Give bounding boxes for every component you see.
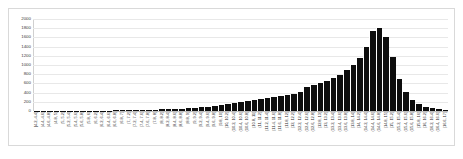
histogram-bar <box>277 96 284 111</box>
x-axis-tick-cell: (11, 11.2] <box>257 112 264 128</box>
x-axis-tick-label: (12, 12.2] <box>291 112 295 128</box>
x-axis-tick-cell: (5.6, 5.8] <box>79 112 86 127</box>
x-axis-tick-cell: (13, 13.2] <box>323 112 330 128</box>
histogram-bar <box>125 110 132 111</box>
histogram-bar <box>112 110 119 111</box>
x-axis-tick-label: (14, 14.2] <box>357 112 361 128</box>
histogram-bar <box>317 83 324 111</box>
histogram-bar <box>422 107 429 111</box>
histogram-bar <box>211 106 218 111</box>
x-axis-tick-cell: (7.8, 8] <box>152 112 159 124</box>
histogram-bar <box>204 107 211 111</box>
x-axis-tick-label: (6.2, 6.4] <box>100 112 104 127</box>
x-axis-tick-label: (11.4, 11.6] <box>272 112 276 131</box>
x-axis-tick-label: (9, 9.2] <box>193 112 197 124</box>
y-axis-tick-label: 1400 <box>21 44 31 48</box>
x-axis-tick-cell: (13.4, 13.6] <box>336 112 343 132</box>
x-axis-tick-cell: (5, 5.2] <box>59 112 66 124</box>
histogram-bar <box>356 58 363 111</box>
x-axis-tick-label: (14.2, 14.4] <box>364 112 368 132</box>
x-axis-tick-cell: (10.4, 10.6] <box>237 112 244 132</box>
x-axis-tick-label: (6.6, 6.8] <box>113 112 117 127</box>
x-axis-tick-cell: (13.6, 13.8] <box>343 112 350 132</box>
histogram-bar <box>257 99 264 111</box>
x-axis-tick-cell: (13.8, 14] <box>350 112 357 128</box>
histogram-bar <box>244 101 251 111</box>
x-axis-tick-cell: (14.2, 14.4] <box>363 112 370 132</box>
x-axis-tick-label: (15, 15.2] <box>390 112 394 128</box>
x-axis-tick-cell: (8, 8.2] <box>158 112 165 124</box>
x-axis-tick-label: (8.8, 9] <box>186 112 190 124</box>
x-axis-tick-cell: (10, 10.2] <box>224 112 231 128</box>
x-axis-tick-labels: [4.2, 4.4](4.4, 4.6](4.6, 4.8](4.8, 5](5… <box>33 112 448 158</box>
x-axis-tick-cell: (9.2, 9.4] <box>198 112 205 127</box>
x-axis-tick-cell: (7, 7.2] <box>125 112 132 124</box>
histogram-bar <box>330 78 337 111</box>
x-axis-tick-cell: (15.8, 16] <box>415 112 422 128</box>
histogram-bar <box>231 103 238 111</box>
x-axis-tick-cell: (9, 9.2] <box>191 112 198 124</box>
x-axis-tick-cell: (16, 16.2] <box>422 112 429 128</box>
x-axis-tick-label: (8.2, 8.4] <box>166 112 170 127</box>
x-axis-tick-label: (4.4, 4.6] <box>41 112 45 127</box>
histogram-bar <box>402 92 409 111</box>
histogram-bar <box>284 95 291 111</box>
x-axis-tick-cell: (10.2, 10.4] <box>231 112 238 132</box>
x-axis-tick-cell: (14.8, 15] <box>382 112 389 128</box>
x-axis-tick-cell: (16.4, 16.6] <box>435 112 442 132</box>
x-axis-tick-label: (5.8, 6] <box>87 112 91 124</box>
histogram-bar <box>396 79 403 111</box>
x-axis-tick-label: (16.2, 16.4] <box>430 112 434 132</box>
plot-area: 0200400600800100012001400160018002000 <box>33 19 448 111</box>
x-axis-tick-label: (9.4, 9.6] <box>206 112 210 127</box>
x-axis-tick-label: (4.8, 5] <box>54 112 58 124</box>
histogram-bar <box>363 47 370 111</box>
x-axis-tick-cell: (15.2, 15.4] <box>396 112 403 132</box>
x-axis-tick-label: (8, 8.2] <box>160 112 164 124</box>
x-axis-tick-label: (7.2, 7.4] <box>133 112 137 127</box>
x-axis-tick-cell: (8.8, 9] <box>185 112 192 124</box>
x-axis-tick-cell: (4.8, 5] <box>53 112 60 124</box>
x-axis-tick-label: (5.2, 5.4] <box>67 112 71 127</box>
x-axis-tick-cell: (12, 12.2] <box>290 112 297 128</box>
histogram-bar <box>178 109 185 111</box>
x-axis-tick-cell: (4.6, 4.8] <box>46 112 53 127</box>
x-axis-tick-label: (11.8, 12] <box>285 112 289 128</box>
histogram-bar <box>369 31 376 112</box>
y-axis-tick-label: 0 <box>29 109 31 113</box>
x-axis-tick-label: (4.6, 4.8] <box>47 112 51 127</box>
x-axis-tick-cell: (11.2, 11.4] <box>264 112 271 131</box>
x-axis-tick-label: (12.8, 13] <box>318 112 322 128</box>
y-axis-tick-label: 1000 <box>21 63 31 67</box>
x-axis-tick-cell: (8.4, 8.6] <box>171 112 178 127</box>
x-axis-tick-label: (9.2, 9.4] <box>199 112 203 127</box>
x-axis-tick-label: (6, 6.2] <box>94 112 98 124</box>
x-axis-tick-label: (13.4, 13.6] <box>338 112 342 132</box>
x-axis-tick-label: (14.8, 15] <box>384 112 388 128</box>
histogram-bars <box>33 19 448 111</box>
x-axis-tick-cell: (8.2, 8.4] <box>165 112 172 127</box>
x-axis-tick-cell: (14.6, 14.8] <box>376 112 383 132</box>
x-axis-tick-cell: (6, 6.2] <box>92 112 99 124</box>
y-axis-tick-label: 400 <box>24 90 31 94</box>
x-axis-tick-label: (10.6, 10.8] <box>245 112 249 132</box>
x-axis-tick-cell: (9.6, 9.8] <box>211 112 218 127</box>
histogram-bar <box>185 108 192 111</box>
x-axis-tick-cell: (7.4, 7.6] <box>139 112 146 127</box>
histogram-bar <box>409 100 416 112</box>
x-axis-tick-cell: (6.6, 6.8] <box>112 112 119 127</box>
histogram-bar <box>435 109 442 111</box>
x-axis-tick-label: (10, 10.2] <box>225 112 229 128</box>
x-axis-tick-label: (7, 7.2] <box>127 112 131 124</box>
x-axis-tick-cell: (8.6, 8.8] <box>178 112 185 127</box>
x-axis-tick-cell: (14, 14.2] <box>356 112 363 128</box>
x-axis-tick-label: (14.6, 14.8] <box>377 112 381 132</box>
x-axis-tick-cell: (6.2, 6.4] <box>99 112 106 127</box>
histogram-bar <box>119 110 126 111</box>
x-axis-tick-label: (9.8, 10] <box>219 112 223 126</box>
histogram-bar <box>297 92 304 111</box>
x-axis-tick-label: (10.2, 10.4] <box>232 112 236 132</box>
y-axis-tick-label: 1800 <box>21 26 31 30</box>
x-axis-tick-cell: (5.8, 6] <box>86 112 93 124</box>
histogram-bar <box>132 110 139 111</box>
